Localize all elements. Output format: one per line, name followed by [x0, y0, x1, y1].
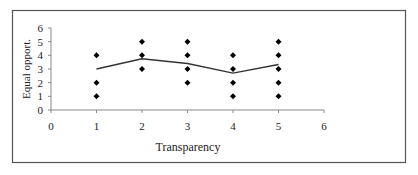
x-tick-label: 0 — [48, 120, 54, 132]
x-tick-label: 3 — [185, 120, 191, 132]
y-tick-label: 6 — [38, 22, 44, 34]
y-tick-label: 2 — [38, 77, 44, 89]
data-point-marker — [185, 39, 191, 45]
tick-labels: 01234560123456 — [38, 22, 328, 132]
data-point-marker — [276, 93, 282, 99]
y-axis-label: Equal opport. — [20, 39, 32, 99]
x-tick-label: 2 — [139, 120, 145, 132]
data-point-marker — [230, 52, 236, 58]
y-tick-label: 4 — [38, 49, 44, 61]
data-point-marker — [139, 66, 145, 72]
data-point-marker — [276, 52, 282, 58]
data-point-marker — [230, 80, 236, 86]
data-point-marker — [276, 66, 282, 72]
y-tick-label: 5 — [38, 36, 44, 48]
data-point-marker — [139, 39, 145, 45]
x-tick-label: 6 — [321, 120, 327, 132]
data-point-marker — [230, 66, 236, 72]
x-tick-label: 1 — [94, 120, 100, 132]
data-point-marker — [139, 52, 145, 58]
data-point-marker — [94, 80, 100, 86]
x-tick-label: 4 — [230, 120, 236, 132]
data-point-marker — [94, 93, 100, 99]
x-axis-label: Transparency — [156, 140, 221, 154]
x-tick-label: 5 — [276, 120, 282, 132]
data-point-marker — [185, 52, 191, 58]
data-point-marker — [276, 39, 282, 45]
data-point-marker — [276, 80, 282, 86]
data-point-marker — [185, 80, 191, 86]
y-tick-label: 1 — [38, 90, 44, 102]
data-point-marker — [185, 66, 191, 72]
y-tick-label: 3 — [38, 63, 44, 75]
y-tick-label: 0 — [38, 104, 44, 116]
data-point-marker — [94, 52, 100, 58]
chart: 01234560123456 Transparency Equal opport… — [0, 0, 418, 175]
data-point-marker — [230, 93, 236, 99]
